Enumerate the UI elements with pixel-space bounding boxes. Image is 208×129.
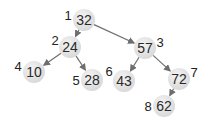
tree-edge: [44, 53, 61, 65]
tree-edge: [170, 89, 174, 96]
node-order-label: 8: [144, 99, 151, 114]
tree-node: 24: [59, 36, 81, 58]
node-order-label: 6: [105, 64, 112, 79]
tree-edge: [153, 55, 170, 71]
tree-node: 57: [134, 37, 156, 59]
tree-node: 62: [153, 95, 175, 117]
node-order-label: 5: [72, 73, 79, 88]
node-order-label: 3: [156, 35, 163, 50]
tree-node: 28: [81, 69, 103, 91]
tree-edge: [94, 25, 134, 43]
node-order-label: 4: [14, 59, 21, 74]
tree-node: 72: [168, 68, 190, 90]
node-order-label: 2: [51, 33, 58, 48]
tree-node: 43: [113, 70, 135, 92]
tree-node: 32: [73, 9, 95, 31]
node-order-label: 1: [64, 8, 71, 23]
node-order-label: 7: [190, 65, 197, 80]
tree-edge: [76, 30, 79, 37]
tree-node: 10: [23, 61, 45, 83]
tree-edge: [130, 57, 139, 71]
tree-edge: [76, 56, 85, 70]
